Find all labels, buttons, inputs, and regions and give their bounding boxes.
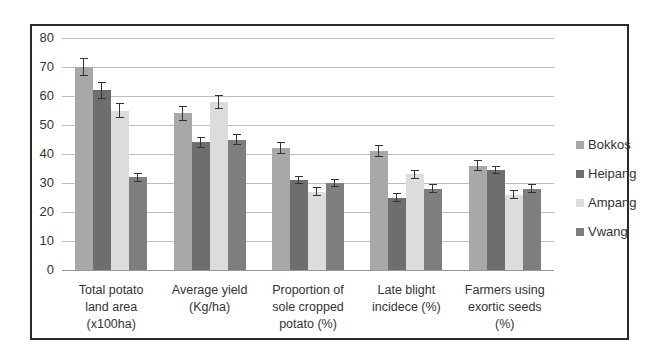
error-bar <box>393 193 401 202</box>
y-tick-label: 70 <box>30 59 54 74</box>
bar-vwang <box>326 183 344 270</box>
gridline <box>62 67 554 68</box>
error-bar <box>510 190 518 199</box>
error-bar <box>331 179 339 188</box>
x-tick-label: Average yield (Kg/ha) <box>162 282 258 316</box>
error-bar <box>98 82 106 99</box>
gridline <box>62 96 554 97</box>
legend-swatch-icon <box>576 228 584 236</box>
bar-ampang <box>111 111 129 271</box>
bar-ampang <box>308 192 326 270</box>
legend: BokkosHeipangAmpangVwang <box>576 130 636 246</box>
legend-label: Ampang <box>588 195 636 210</box>
legend-swatch-icon <box>576 141 584 149</box>
x-tick-label: Farmers using exortic seeds (%) <box>457 282 553 333</box>
bar-heipang <box>487 170 505 270</box>
bar-ampang <box>505 195 523 270</box>
plot-area <box>62 38 554 270</box>
legend-item-ampang: Ampang <box>576 188 636 217</box>
y-tick-label: 30 <box>30 175 54 190</box>
error-bar <box>429 184 437 193</box>
error-bar <box>80 58 88 75</box>
bar-bokkos <box>174 113 192 270</box>
error-bar <box>179 106 187 121</box>
bar-heipang <box>93 90 111 270</box>
gridline <box>62 38 554 39</box>
error-bar <box>295 176 303 185</box>
error-bar <box>375 145 383 157</box>
y-tick-label: 40 <box>30 146 54 161</box>
error-bar <box>411 170 419 179</box>
error-bar <box>474 160 482 172</box>
y-tick-label: 50 <box>30 117 54 132</box>
bar-ampang <box>406 174 424 270</box>
error-bar <box>215 95 223 110</box>
bar-heipang <box>290 180 308 270</box>
gridline <box>62 154 554 155</box>
bar-vwang <box>523 189 541 270</box>
error-bar <box>134 173 142 182</box>
x-tick-label: Proportion of sole cropped potato (%) <box>260 282 356 333</box>
legend-label: Heipang <box>588 166 636 181</box>
y-tick-label: 0 <box>30 262 54 277</box>
bar-bokkos <box>75 67 93 270</box>
error-bar <box>492 166 500 175</box>
bar-ampang <box>210 102 228 270</box>
gridline <box>62 125 554 126</box>
error-bar <box>313 187 321 196</box>
bar-vwang <box>424 189 442 270</box>
error-bar <box>233 134 241 146</box>
bar-vwang <box>228 140 246 271</box>
y-tick-label: 20 <box>30 204 54 219</box>
bar-bokkos <box>469 166 487 270</box>
y-tick-label: 10 <box>30 233 54 248</box>
y-tick-label: 80 <box>30 30 54 45</box>
x-tick-label: Total potato land area (x100ha) <box>63 282 159 333</box>
error-bar <box>116 103 124 118</box>
error-bar <box>277 142 285 154</box>
legend-label: Bokkos <box>588 137 631 152</box>
legend-swatch-icon <box>576 199 584 207</box>
bar-bokkos <box>370 151 388 270</box>
bar-heipang <box>388 198 406 271</box>
legend-item-vwang: Vwang <box>576 217 636 246</box>
bar-vwang <box>129 177 147 270</box>
legend-item-heipang: Heipang <box>576 159 636 188</box>
x-axis-line <box>62 270 554 271</box>
legend-label: Vwang <box>588 224 628 239</box>
x-tick-label: Late blight incidece (%) <box>358 282 454 316</box>
legend-item-bokkos: Bokkos <box>576 130 636 159</box>
error-bar <box>197 137 205 149</box>
bar-heipang <box>192 142 210 270</box>
error-bar <box>528 184 536 193</box>
y-tick-label: 60 <box>30 88 54 103</box>
legend-swatch-icon <box>576 170 584 178</box>
bar-bokkos <box>272 148 290 270</box>
